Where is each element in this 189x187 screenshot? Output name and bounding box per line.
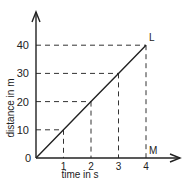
x-tick-label: 3 <box>116 161 122 172</box>
y-tick-labels: 010203040 <box>17 39 31 164</box>
y-axis-label: distance in m <box>5 79 16 138</box>
x-tick-label: 4 <box>143 161 149 172</box>
y-tick-label: 0 <box>25 152 31 164</box>
y-tick-label: 40 <box>17 39 29 51</box>
y-axis <box>32 12 40 158</box>
annotation-m: M <box>149 145 157 156</box>
x-axis <box>36 154 180 162</box>
y-tick-label: 20 <box>17 96 29 108</box>
y-tick-label: 10 <box>17 124 29 136</box>
annotation-l: L <box>149 32 155 43</box>
x-axis-label: time in s <box>61 169 98 180</box>
distance-time-chart: 010203040 1234 LM time in s distance in … <box>0 0 189 187</box>
y-tick-label: 30 <box>17 67 29 79</box>
point-annotations: LM <box>149 32 157 156</box>
